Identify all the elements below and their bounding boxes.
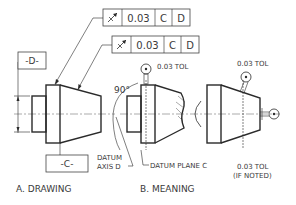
angle-label: 90°	[114, 85, 130, 95]
indicator-stem	[240, 82, 244, 92]
arrow-up-icon	[17, 96, 20, 101]
fcf-top-datum2: D	[177, 13, 185, 24]
leader-top	[55, 18, 103, 84]
drawing-caption: A. DRAWING	[16, 184, 71, 194]
tol-label-top: 0.03 TOL	[157, 63, 189, 71]
datum-plane-label: DATUM PLANE C	[150, 162, 207, 170]
tol-noted-label-line1: 0.03 TOL	[237, 163, 269, 171]
fcf-bottom-datum2: D	[186, 40, 194, 51]
meaning-caption: B. MEANING	[140, 184, 195, 194]
datum-plane-leader	[141, 150, 149, 165]
feature-control-frame-bottom: 0.03 C D	[112, 36, 199, 53]
indicator-stem	[244, 82, 248, 93]
leader-arrow-icon	[78, 84, 82, 90]
fcf-top-datum1: C	[160, 13, 167, 24]
datum-c-label: -C-	[61, 159, 74, 169]
fcf-bottom-tolerance: 0.03	[136, 40, 158, 51]
datum-d-label: -D-	[25, 56, 38, 66]
fcf-bottom-datum1: C	[169, 40, 176, 51]
datum-axis-label-line2: AXIS D	[97, 163, 121, 171]
datum-axis-label-line1: DATUM	[97, 154, 122, 162]
feature-control-frame-top: 0.03 C D	[103, 9, 190, 26]
indicator-stem	[144, 74, 148, 84]
taper-outline-right	[221, 85, 260, 143]
leader-arrow-icon	[55, 79, 59, 85]
meaning-view: 90° DATUM PLANE C 0.03 TOL 0.03 TOL	[113, 60, 280, 194]
tol-noted-label-line2: (IF NOTED)	[233, 172, 272, 180]
tol-label-right: 0.03 TOL	[237, 60, 269, 68]
fcf-top-tolerance: 0.03	[127, 13, 149, 24]
gdt-runout-figure: -D- -C- 0.03 C D	[0, 0, 296, 205]
leader-bottom	[78, 45, 112, 89]
arrow-down-icon	[17, 127, 20, 132]
